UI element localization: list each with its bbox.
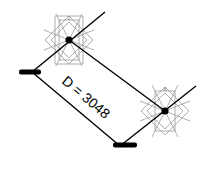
dimension-label: D = 3048 — [59, 73, 113, 122]
node-label-1: 1 — [68, 15, 71, 21]
node-label-8: 8 — [164, 86, 167, 92]
grid-line-8[interactable] — [120, 86, 196, 146]
dimension-tick-right — [113, 143, 137, 148]
diagram-canvas: 1 8 D = 3048 — [0, 0, 210, 169]
dimension-tick-left — [19, 70, 41, 75]
node-point-8[interactable] — [161, 107, 168, 114]
node-point-1[interactable] — [65, 36, 72, 43]
